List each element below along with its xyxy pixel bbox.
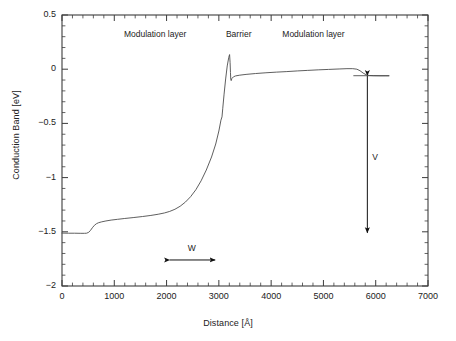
- x-axis-tick-label: 2000: [137, 291, 197, 301]
- x-axis-tick-label: 3000: [189, 291, 249, 301]
- y-axis-tick-label: 0: [16, 63, 56, 73]
- x-axis-tick-label: 7000: [398, 291, 456, 301]
- x-axis-tick-label: 0: [32, 291, 92, 301]
- annotation-modulation-layer-right: Modulation layer: [282, 29, 344, 39]
- data-series-line-0: [62, 55, 389, 234]
- y-axis-tick-label: −2: [16, 280, 56, 290]
- y-axis-tick-label: −1.5: [16, 226, 56, 236]
- x-axis-tick-label: 5000: [293, 291, 353, 301]
- plot-frame: [62, 15, 428, 286]
- x-axis-tick-label: 6000: [346, 291, 406, 301]
- y-axis-title-container: Conduction Band [eV]: [6, 0, 22, 286]
- y-axis-tick-label: −0.5: [16, 117, 56, 127]
- y-axis-tick-label: −1: [16, 172, 56, 182]
- figure-conduction-band-diagram: Conduction Band [eV] Distance [Å] 010002…: [0, 0, 456, 341]
- plot-canvas: [0, 0, 456, 341]
- y-axis-tick-label: 0.5: [16, 9, 56, 19]
- x-axis-tick-label: 4000: [241, 291, 301, 301]
- x-axis-title: Distance [Å]: [0, 318, 456, 328]
- annotation-w-label: W: [188, 243, 196, 253]
- x-axis-tick-label: 1000: [84, 291, 144, 301]
- annotation-barrier: Barrier: [226, 29, 252, 39]
- annotation-v-label: V: [372, 152, 378, 162]
- annotation-modulation-layer-left: Modulation layer: [124, 29, 186, 39]
